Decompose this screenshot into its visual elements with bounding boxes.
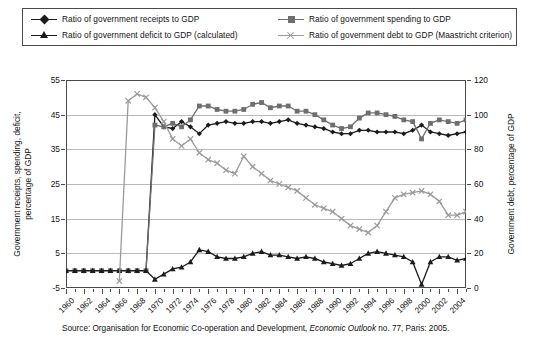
source-prefix: Source: Organisation for Economic Co-ope…	[62, 324, 310, 333]
series-x	[117, 91, 469, 284]
source-suffix: no. 77, Paris: 2005.	[376, 324, 449, 333]
chart-page: Ratio of government receipts to GDP Rati…	[0, 0, 537, 342]
series-triangle	[63, 247, 469, 287]
series-layer	[0, 0, 537, 342]
source-note: Source: Organisation for Economic Co-ope…	[62, 324, 449, 333]
source-italic: Economic Outlook	[310, 324, 376, 333]
